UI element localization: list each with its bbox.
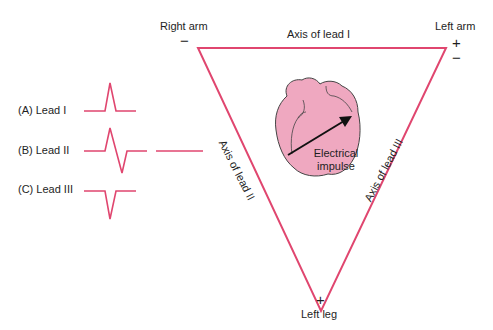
lead-III-waveform (84, 191, 136, 219)
lead-I-label: (A) Lead I (18, 104, 66, 116)
left-arm-positive-sign: + (452, 35, 461, 50)
electrical-impulse-line2: impulse (308, 160, 364, 173)
einthoven-triangle-diagram (0, 0, 493, 330)
lead-II-label: (B) Lead II (18, 144, 69, 156)
right-arm-negative-sign: − (180, 33, 189, 48)
left-arm-negative-sign: − (452, 50, 461, 65)
electrical-impulse-line1: Electrical (308, 147, 364, 160)
left-leg-positive-sign: + (316, 292, 325, 307)
axis-lead-I-label: Axis of lead I (287, 28, 350, 40)
electrical-impulse-label: Electrical impulse (308, 147, 364, 173)
lead-III-label: (C) Lead III (18, 183, 73, 195)
lead-I-waveform (84, 83, 136, 111)
left-leg-label: Left leg (301, 308, 337, 320)
right-arm-label: Right arm (160, 20, 208, 32)
lead-II-waveform (84, 128, 203, 173)
left-arm-label: Left arm (435, 20, 475, 32)
